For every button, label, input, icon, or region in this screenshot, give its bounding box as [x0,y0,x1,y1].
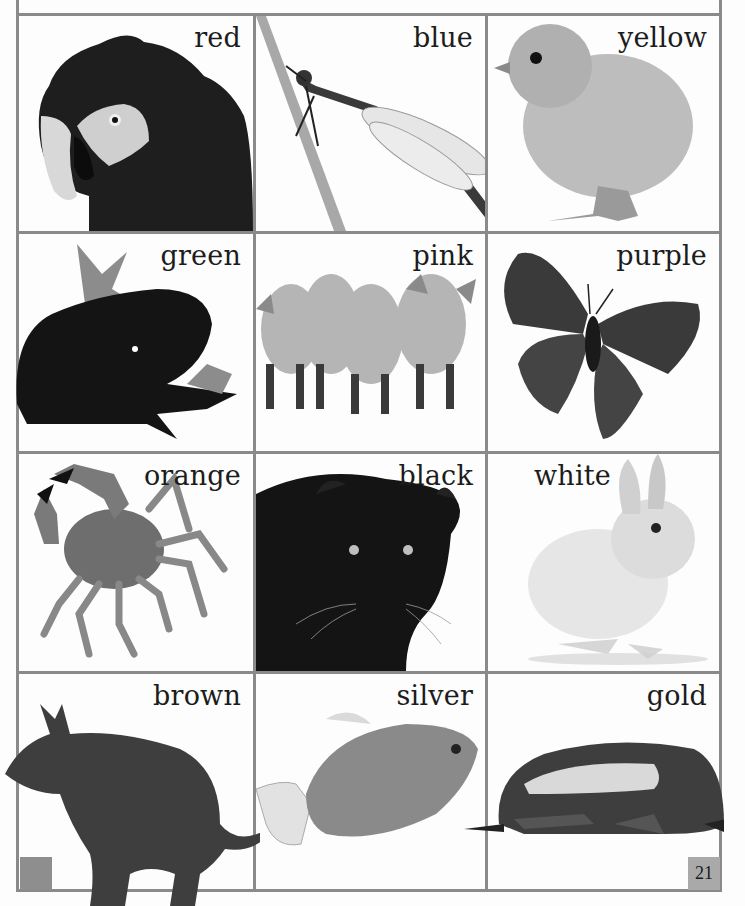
cell-black: black [256,454,485,671]
cell-silver: silver [256,674,485,889]
color-word-brown: brown [153,680,241,711]
color-word-yellow: yellow [618,22,707,53]
cell-pink: pink [256,234,485,451]
cell-brown: brown [19,674,253,889]
book-page: red blue yellow green [0,0,745,906]
cell-green: green [19,234,253,451]
color-word-silver: silver [397,680,473,711]
color-word-pink: pink [413,240,473,271]
color-word-gold: gold [647,680,707,711]
cell-gold: gold [488,674,719,889]
color-word-green: green [160,240,241,271]
color-word-white: white [534,460,611,491]
color-word-purple: purple [616,240,707,271]
color-word-red: red [194,22,241,53]
color-word-orange: orange [144,460,241,491]
corner-color-block [20,857,52,890]
page-number: 21 [688,857,720,890]
cell-blue: blue [256,16,485,231]
cell-orange: orange [19,454,253,671]
cell-white: white [488,454,719,671]
color-word-blue: blue [413,22,473,53]
cell-purple: purple [488,234,719,451]
cell-yellow: yellow [488,16,719,231]
color-word-black: black [399,460,474,491]
cell-red: red [19,16,253,231]
